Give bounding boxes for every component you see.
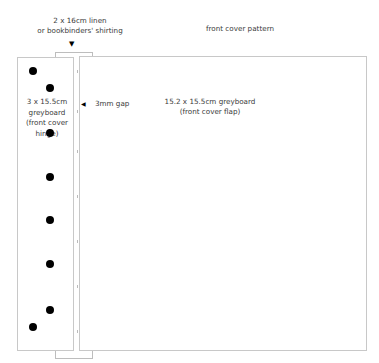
stitch-mark (77, 330, 78, 333)
linen-label: 2 x 16cm linen or bookbinders' shirting (25, 16, 135, 36)
linen-label-line1: 2 x 16cm linen (25, 16, 135, 26)
stitch-mark (77, 150, 78, 153)
hinge-label-line3: (front cover (22, 118, 72, 129)
stitch-mark (77, 70, 78, 73)
pattern-title: front cover pattern (180, 24, 300, 34)
stitch-mark (77, 195, 78, 198)
gap-arrow-icon: ◀ (81, 100, 86, 107)
gap-label: 3mm gap (95, 99, 129, 109)
stitch-mark (77, 240, 78, 243)
flap-label: 15.2 x 15.5cm greyboard (front cover fla… (140, 97, 280, 117)
hole-dot-icon (46, 260, 54, 268)
hole-dot-icon (46, 216, 54, 224)
flap-label-line2: (front cover flap) (140, 107, 280, 117)
linen-arrow-icon: ▼ (69, 40, 74, 48)
hole-dot-icon (46, 129, 54, 137)
hinge-label-line1: 3 x 15.5cm (22, 97, 72, 108)
linen-label-line2: or bookbinders' shirting (25, 26, 135, 36)
hole-dot-icon (46, 173, 54, 181)
flap-label-line1: 15.2 x 15.5cm greyboard (140, 97, 280, 107)
hinge-label-line2: greyboard (22, 108, 72, 119)
hole-dot-icon (46, 84, 54, 92)
hole-dot-icon (46, 306, 54, 314)
hole-dot-icon (29, 323, 37, 331)
stitch-mark (77, 285, 78, 288)
hole-dot-icon (29, 67, 37, 75)
stitch-mark (77, 110, 78, 113)
